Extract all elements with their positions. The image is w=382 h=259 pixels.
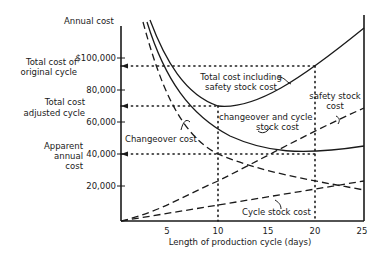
x-tick-25: 25 xyxy=(352,226,372,236)
label-changeover-cycle-1: changeover and cycle xyxy=(219,112,313,122)
x-tick-15: 15 xyxy=(258,226,278,236)
y-axis-title: Annual cost xyxy=(64,16,114,26)
x-tick-10: 10 xyxy=(208,226,228,236)
annotation-adjusted-1: Total cost xyxy=(0,97,85,107)
safety-stock-line xyxy=(121,108,364,221)
x-tick-20: 20 xyxy=(305,226,325,236)
label-safety-1: safety stock xyxy=(305,91,365,101)
y-tick-80000: 80,000 xyxy=(60,85,116,95)
x-tick-5: 5 xyxy=(157,226,177,236)
label-safety-2: cost xyxy=(305,101,365,111)
label-total-cost-1: Total cost including xyxy=(186,72,296,82)
y-tick-20000: 20,000 xyxy=(60,181,116,191)
label-changeover-cost: Changeover cost xyxy=(125,134,197,144)
annotation-apparent-3: cost xyxy=(0,161,83,171)
label-total-cost-2: safety stock cost xyxy=(186,82,296,92)
leader-safety xyxy=(336,116,339,124)
x-axis-title: Length of production cycle (days) xyxy=(140,237,340,247)
y-tick-60000: 60,000 xyxy=(60,117,116,127)
y-tick-40000: 40,000 xyxy=(60,149,116,159)
label-changeover-cycle-2: stock cost xyxy=(256,122,299,132)
y-tick-100000: $100,000 xyxy=(60,53,116,63)
annotation-original-2: original cycle xyxy=(0,67,77,77)
cost-vs-cycle-chart xyxy=(0,0,382,259)
label-cycle-stock: Cycle stock cost xyxy=(242,207,311,217)
